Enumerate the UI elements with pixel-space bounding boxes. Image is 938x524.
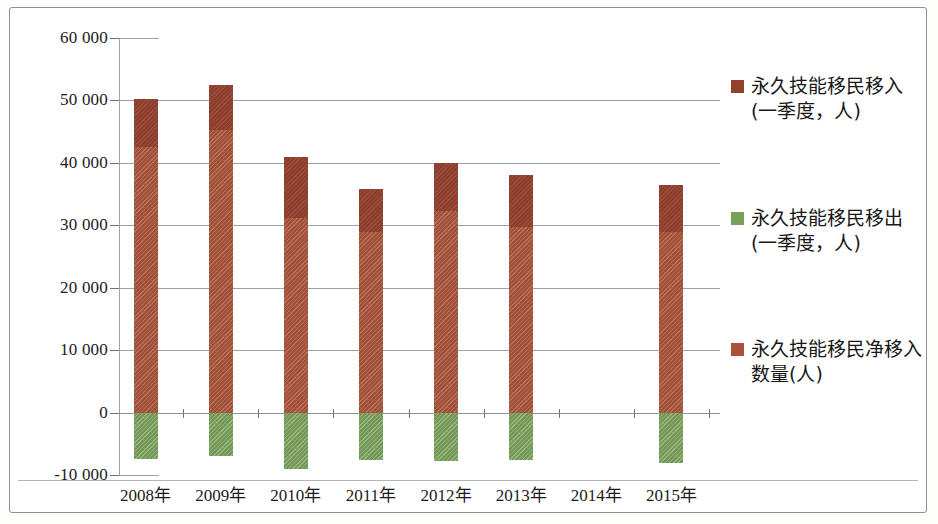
y-axis-tick-label: -10 000 — [0, 465, 108, 485]
y-axis-tick-label: 20 000 — [0, 278, 108, 298]
y-axis-tick-mark — [110, 38, 119, 39]
bar-segment-inflow — [209, 85, 233, 130]
bar-segment-inflow — [359, 189, 383, 231]
plot-area — [119, 38, 720, 475]
y-axis-tick-label: 50 000 — [0, 90, 108, 110]
bar-segment-outflow — [359, 413, 383, 460]
y-axis-tick-label: 10 000 — [0, 340, 108, 360]
x-axis-tick-mark — [634, 409, 635, 418]
bar-segment-net-inflow — [659, 232, 683, 413]
y-axis-tick-label: 30 000 — [0, 215, 108, 235]
y-axis-tick-mark — [110, 288, 119, 289]
bar-segment-outflow — [659, 413, 683, 463]
square-swatch-icon — [731, 212, 744, 225]
x-axis-tick-mark — [333, 409, 334, 418]
bar-segment-outflow — [134, 413, 158, 460]
legend-item-net-inflow[interactable]: 永久技能移民净移入 数量(人) — [731, 337, 922, 387]
y-axis-tick-label: 60 000 — [0, 28, 108, 48]
square-swatch-icon — [731, 343, 744, 356]
bar-segment-outflow — [284, 413, 308, 469]
bar-segment-net-inflow — [209, 130, 233, 412]
bar-segment-net-inflow — [134, 147, 158, 412]
bar-segment-inflow — [434, 163, 458, 210]
x-axis-tick-mark — [258, 409, 259, 418]
bar-segment-inflow — [134, 99, 158, 147]
x-axis-tick-mark — [183, 409, 184, 418]
y-axis-tick-mark — [110, 163, 119, 164]
y-axis-tick-label: 0 — [0, 403, 108, 423]
bar-segment-inflow — [659, 185, 683, 231]
gridline — [119, 475, 159, 476]
x-axis-tick-mark — [484, 409, 485, 418]
y-axis-tick-mark — [110, 350, 119, 351]
bar-segment-net-inflow — [359, 232, 383, 413]
square-swatch-icon — [731, 80, 744, 93]
x-axis-tick-mark — [709, 409, 710, 418]
y-axis-tick-mark — [110, 100, 119, 101]
bar-segment-net-inflow — [284, 218, 308, 413]
bar-segment-outflow — [209, 413, 233, 457]
bar-segment-outflow — [434, 413, 458, 461]
x-axis-tick-label: 2015年 — [626, 481, 716, 506]
bar-segment-inflow — [284, 157, 308, 218]
bar-segment-outflow — [509, 413, 533, 460]
legend-item-inflow[interactable]: 永久技能移民移入 (一季度，人) — [731, 74, 903, 124]
y-axis-tick-mark — [110, 225, 119, 226]
x-axis-tick-mark — [559, 409, 560, 418]
bar-segment-net-inflow — [434, 211, 458, 413]
y-axis-tick-label: 40 000 — [0, 153, 108, 173]
y-axis-tick-mark — [110, 475, 119, 476]
legend-item-outflow[interactable]: 永久技能移民移出 (一季度，人) — [731, 206, 903, 256]
bar-segment-net-inflow — [509, 227, 533, 412]
legend-label-outflow: 永久技能移民移出 (一季度，人) — [751, 206, 903, 256]
bar-segment-inflow — [509, 175, 533, 227]
x-axis-tick-mark — [409, 409, 410, 418]
y-axis-tick-mark — [110, 413, 119, 414]
legend-label-inflow: 永久技能移民移入 (一季度，人) — [751, 74, 903, 124]
chart-screenshot: 60 00050 00040 00030 00020 00010 0000-10… — [0, 0, 938, 524]
legend-label-net-inflow: 永久技能移民净移入 数量(人) — [751, 337, 922, 387]
